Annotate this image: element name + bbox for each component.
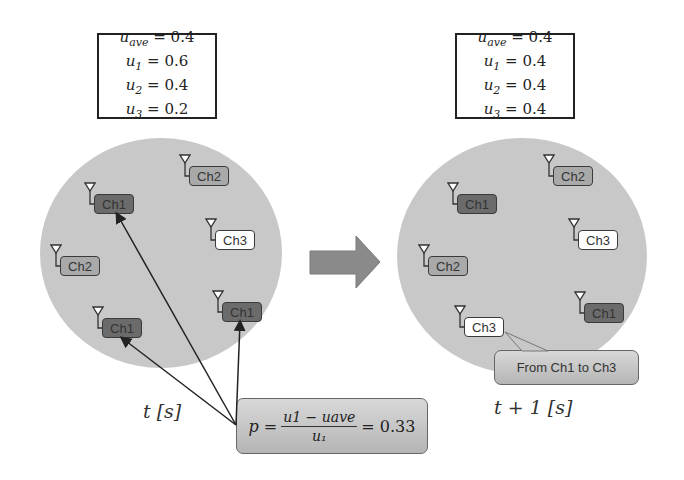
channel-chip: Ch3 xyxy=(464,317,504,337)
left-u1: u1 = 0.6 xyxy=(126,52,189,76)
channel-chip: Ch1 xyxy=(94,194,134,214)
channel-chip: Ch2 xyxy=(428,256,468,276)
right-u2: u2 = 0.4 xyxy=(484,76,547,100)
channel-chip: Ch2 xyxy=(189,166,229,186)
left-utilization-box: uave = 0.4 u1 = 0.6 u2 = 0.4 u3 = 0.2 xyxy=(97,33,217,119)
channel-chip: Ch3 xyxy=(578,230,618,250)
left-cell-area xyxy=(40,138,282,368)
channel-chip: Ch1 xyxy=(584,303,624,323)
left-time-label: t [s] xyxy=(143,400,181,422)
channel-switch-note: From Ch1 to Ch3 xyxy=(494,350,639,385)
left-u-ave: uave = 0.4 xyxy=(120,28,195,52)
formula-lhs: p = xyxy=(249,417,278,436)
channel-chip: Ch1 xyxy=(457,194,497,214)
left-u2: u2 = 0.4 xyxy=(126,76,189,100)
formula-fraction: u1 − uave u₁ xyxy=(281,409,357,444)
formula-denominator: u₁ xyxy=(312,427,327,444)
right-u-ave: uave = 0.4 xyxy=(478,28,553,52)
right-time-label: t + 1 [s] xyxy=(494,396,572,418)
channel-chip: Ch1 xyxy=(102,318,142,338)
channel-switch-note-text: From Ch1 to Ch3 xyxy=(495,351,638,384)
probability-formula-callout: p = u1 − uave u₁ = 0.33 xyxy=(236,398,428,454)
right-u1: u1 = 0.4 xyxy=(484,52,547,76)
probability-formula: p = u1 − uave u₁ = 0.33 xyxy=(237,399,427,453)
channel-chip: Ch3 xyxy=(215,230,255,250)
right-utilization-box: uave = 0.4 u1 = 0.4 u2 = 0.4 u3 = 0.4 xyxy=(455,33,575,119)
left-u3: u3 = 0.2 xyxy=(126,100,189,124)
formula-rhs: = 0.33 xyxy=(361,417,415,436)
right-u3: u3 = 0.4 xyxy=(484,100,547,124)
channel-chip: Ch2 xyxy=(553,166,593,186)
channel-chip: Ch1 xyxy=(222,302,262,322)
formula-numerator: u1 − uave xyxy=(281,409,357,427)
channel-chip: Ch2 xyxy=(60,256,100,276)
